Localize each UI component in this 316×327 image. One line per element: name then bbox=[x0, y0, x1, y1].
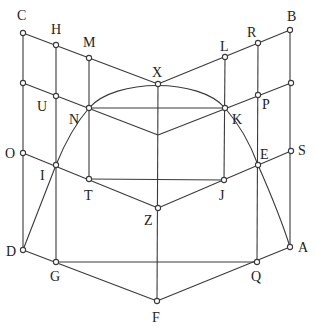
point-k bbox=[222, 105, 227, 110]
segment-R-Q bbox=[257, 43, 258, 262]
point-a bbox=[287, 244, 292, 249]
point-f bbox=[154, 298, 159, 303]
label-j: J bbox=[219, 188, 225, 203]
point-x bbox=[155, 81, 160, 86]
label-e: E bbox=[260, 147, 269, 162]
point-lm bbox=[20, 80, 25, 85]
point-e bbox=[255, 162, 260, 167]
point-n bbox=[86, 105, 91, 110]
point-s bbox=[288, 148, 293, 153]
label-k: K bbox=[232, 112, 242, 127]
point-l bbox=[222, 54, 227, 59]
point-g bbox=[53, 259, 58, 264]
label-n: N bbox=[69, 112, 79, 127]
label-c: C bbox=[17, 8, 26, 23]
geometric-diagram: CHMXLRBUNKPOITZJESDGFQA bbox=[0, 0, 316, 327]
label-u: U bbox=[37, 99, 47, 114]
segment-D-F bbox=[23, 250, 157, 301]
point-rm bbox=[288, 80, 293, 85]
segment-T-J bbox=[89, 179, 224, 180]
point-h bbox=[53, 42, 58, 47]
label-p: P bbox=[262, 97, 270, 112]
label-m: M bbox=[83, 35, 96, 50]
label-f: F bbox=[152, 310, 160, 325]
point-j bbox=[221, 177, 226, 182]
point-c bbox=[20, 30, 25, 35]
label-r: R bbox=[247, 25, 257, 40]
label-z: Z bbox=[144, 213, 153, 228]
label-l: L bbox=[220, 39, 229, 54]
point-z bbox=[155, 205, 160, 210]
point-r bbox=[255, 40, 260, 45]
label-q: Q bbox=[251, 269, 261, 284]
point-b bbox=[287, 27, 292, 32]
curve-arc bbox=[23, 86, 290, 251]
segment-L-J bbox=[224, 57, 225, 180]
label-a: A bbox=[298, 240, 309, 255]
label-t: T bbox=[84, 188, 93, 203]
point-o bbox=[20, 150, 25, 155]
label-o: O bbox=[5, 146, 15, 161]
segment-F-A bbox=[157, 247, 290, 301]
point-m bbox=[86, 55, 91, 60]
label-s: S bbox=[298, 143, 306, 158]
point-i bbox=[53, 162, 58, 167]
segment-X-F bbox=[157, 84, 158, 301]
point-q bbox=[254, 259, 259, 264]
label-i: I bbox=[40, 168, 45, 183]
point-p bbox=[255, 92, 260, 97]
point-u bbox=[53, 93, 58, 98]
label-h: H bbox=[51, 22, 61, 37]
point-t bbox=[86, 176, 91, 181]
label-x: X bbox=[152, 65, 162, 80]
point-d bbox=[20, 247, 25, 252]
label-d: D bbox=[6, 244, 16, 259]
label-b: B bbox=[287, 9, 296, 24]
label-g: G bbox=[50, 269, 60, 284]
